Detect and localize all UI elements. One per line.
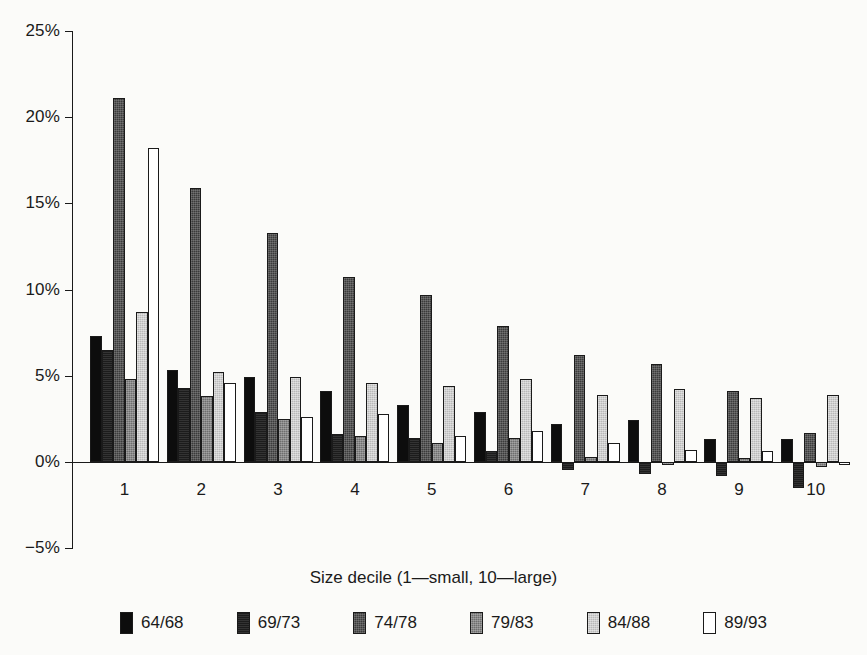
y-tick-label: 25% bbox=[25, 21, 60, 41]
bar-64-68-decile-7 bbox=[551, 424, 563, 462]
bar-69-73-decile-4 bbox=[332, 434, 344, 462]
y-tick-mark bbox=[65, 376, 73, 377]
bar-64-68-decile-4 bbox=[320, 391, 332, 462]
bar-74-78-decile-5 bbox=[420, 295, 432, 462]
bar-64-68-decile-3 bbox=[244, 377, 256, 461]
x-tick-label: 4 bbox=[320, 480, 389, 500]
bar-64-68-decile-8 bbox=[628, 420, 640, 461]
bar-89-93-decile-8 bbox=[685, 450, 697, 462]
bar-64-68-decile-6 bbox=[474, 412, 486, 462]
bar-group: 7 bbox=[551, 31, 620, 548]
grouped-bar-chart: −5%0%5%10%15%20%25% 12345678910 Size dec… bbox=[0, 0, 867, 655]
bar-89-93-decile-2 bbox=[224, 383, 236, 462]
legend-swatch-icon bbox=[353, 612, 366, 634]
y-tick-mark bbox=[65, 290, 73, 291]
y-tick-label: 10% bbox=[25, 280, 60, 300]
x-tick-label: 8 bbox=[628, 480, 697, 500]
bar-79-83-decile-10 bbox=[816, 462, 828, 467]
bar-84-88-decile-4 bbox=[366, 383, 378, 462]
bar-79-83-decile-4 bbox=[355, 436, 367, 462]
legend-item-64-68[interactable]: 64/68 bbox=[120, 612, 237, 634]
bar-89-93-decile-9 bbox=[762, 451, 774, 461]
bar-group: 1 bbox=[90, 31, 159, 548]
legend-item-89-93[interactable]: 89/93 bbox=[703, 612, 820, 634]
legend-swatch-icon bbox=[120, 612, 133, 634]
legend-item-69-73[interactable]: 69/73 bbox=[237, 612, 354, 634]
bar-69-73-decile-6 bbox=[486, 451, 498, 461]
bar-74-78-decile-1 bbox=[113, 98, 125, 462]
bar-89-93-decile-10 bbox=[839, 462, 851, 465]
bar-79-83-decile-6 bbox=[509, 438, 521, 462]
bar-84-88-decile-1 bbox=[136, 312, 148, 462]
bar-69-73-decile-2 bbox=[178, 388, 190, 462]
bar-74-78-decile-8 bbox=[651, 364, 663, 462]
legend-item-74-78[interactable]: 74/78 bbox=[353, 612, 470, 634]
y-tick-label: 15% bbox=[25, 193, 60, 213]
legend-label: 64/68 bbox=[141, 613, 184, 633]
bar-89-93-decile-3 bbox=[301, 417, 313, 462]
x-tick-label: 5 bbox=[397, 480, 466, 500]
x-tick-label: 9 bbox=[704, 480, 773, 500]
y-tick-mark bbox=[65, 203, 73, 204]
legend-swatch-icon bbox=[237, 612, 250, 634]
bar-74-78-decile-7 bbox=[574, 355, 586, 462]
bar-89-93-decile-1 bbox=[148, 148, 160, 462]
bar-74-78-decile-9 bbox=[727, 391, 739, 462]
bar-64-68-decile-1 bbox=[90, 336, 102, 462]
chart-legend: 64/6869/7374/7879/8384/8889/93 bbox=[120, 612, 820, 634]
bar-84-88-decile-5 bbox=[443, 386, 455, 462]
bar-89-93-decile-7 bbox=[608, 443, 620, 462]
legend-item-84-88[interactable]: 84/88 bbox=[587, 612, 704, 634]
y-tick-mark bbox=[65, 548, 73, 549]
bar-84-88-decile-10 bbox=[827, 395, 839, 462]
legend-label: 89/93 bbox=[724, 613, 767, 633]
legend-swatch-icon bbox=[703, 612, 716, 634]
bar-69-73-decile-3 bbox=[255, 412, 267, 462]
legend-label: 79/83 bbox=[491, 613, 534, 633]
bar-89-93-decile-6 bbox=[532, 431, 544, 462]
bar-69-73-decile-9 bbox=[716, 462, 728, 476]
legend-swatch-icon bbox=[587, 612, 600, 634]
bar-84-88-decile-9 bbox=[750, 398, 762, 462]
bar-79-83-decile-1 bbox=[125, 379, 137, 462]
bar-89-93-decile-4 bbox=[378, 414, 390, 462]
bar-84-88-decile-7 bbox=[597, 395, 609, 462]
bar-84-88-decile-3 bbox=[290, 377, 302, 461]
x-tick-label: 10 bbox=[781, 480, 850, 500]
bar-group: 4 bbox=[320, 31, 389, 548]
y-tick-mark bbox=[65, 462, 73, 463]
bar-74-78-decile-10 bbox=[804, 433, 816, 462]
legend-swatch-icon bbox=[470, 612, 483, 634]
bar-79-83-decile-8 bbox=[662, 462, 674, 465]
legend-label: 69/73 bbox=[258, 613, 301, 633]
bar-84-88-decile-8 bbox=[674, 389, 686, 461]
bar-group: 2 bbox=[167, 31, 236, 548]
bar-69-73-decile-8 bbox=[639, 462, 651, 474]
bar-group: 9 bbox=[704, 31, 773, 548]
bar-79-83-decile-2 bbox=[201, 396, 213, 461]
y-tick-label: 0% bbox=[35, 452, 60, 472]
plot-area: −5%0%5%10%15%20%25% 12345678910 bbox=[72, 31, 840, 548]
y-tick-label: −5% bbox=[25, 538, 60, 558]
bar-group: 10 bbox=[781, 31, 850, 548]
bar-69-73-decile-7 bbox=[562, 462, 574, 471]
legend-label: 84/88 bbox=[608, 613, 651, 633]
bar-84-88-decile-6 bbox=[520, 379, 532, 462]
x-axis-title: Size decile (1—small, 10—large) bbox=[0, 568, 867, 588]
x-tick-label: 1 bbox=[90, 480, 159, 500]
bar-64-68-decile-9 bbox=[704, 439, 716, 461]
bar-group: 6 bbox=[474, 31, 543, 548]
y-tick-label: 20% bbox=[25, 107, 60, 127]
legend-label: 74/78 bbox=[374, 613, 417, 633]
bar-group: 8 bbox=[628, 31, 697, 548]
legend-item-79-83[interactable]: 79/83 bbox=[470, 612, 587, 634]
x-tick-label: 3 bbox=[244, 480, 313, 500]
y-tick-label: 5% bbox=[35, 366, 60, 386]
bar-84-88-decile-2 bbox=[213, 372, 225, 462]
x-tick-label: 7 bbox=[551, 480, 620, 500]
bar-79-83-decile-7 bbox=[585, 457, 597, 462]
bar-74-78-decile-6 bbox=[497, 326, 509, 462]
bar-74-78-decile-3 bbox=[267, 233, 279, 462]
bar-64-68-decile-2 bbox=[167, 370, 179, 461]
y-tick-mark bbox=[65, 117, 73, 118]
